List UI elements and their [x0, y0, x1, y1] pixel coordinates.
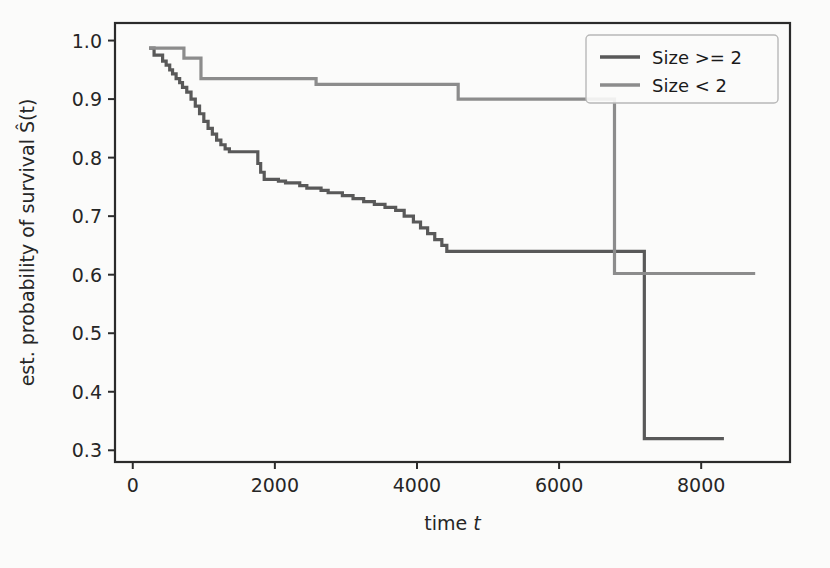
legend-label-0: Size >= 2	[652, 47, 742, 68]
y-tick-label: 0.8	[72, 147, 102, 169]
x-tick-label: 6000	[535, 474, 583, 496]
x-tick-label: 0	[127, 474, 139, 496]
y-tick-label: 0.5	[72, 322, 102, 344]
x-axis-ticks: 02000400060008000	[127, 462, 726, 496]
y-tick-label: 0.6	[72, 264, 102, 286]
x-axis-label: time t	[424, 512, 482, 534]
y-axis-label: est. probability of survival Ŝ(t)	[15, 99, 38, 387]
y-tick-label: 1.0	[72, 30, 102, 52]
x-tick-label: 2000	[251, 474, 299, 496]
y-tick-label: 0.3	[72, 439, 102, 461]
y-tick-label: 0.7	[72, 205, 102, 227]
survival-chart-figure: 0.30.40.50.60.70.80.91.0 020004000600080…	[0, 0, 830, 568]
x-tick-label: 4000	[393, 474, 441, 496]
legend-label-1: Size < 2	[652, 75, 727, 96]
survival-chart-svg: 0.30.40.50.60.70.80.91.0 020004000600080…	[0, 0, 830, 568]
x-tick-label: 8000	[677, 474, 725, 496]
chart-legend[interactable]: Size >= 2Size < 2	[586, 35, 778, 103]
y-tick-label: 0.9	[72, 88, 102, 110]
y-tick-label: 0.4	[72, 381, 102, 403]
y-axis-ticks: 0.30.40.50.60.70.80.91.0	[72, 30, 115, 462]
